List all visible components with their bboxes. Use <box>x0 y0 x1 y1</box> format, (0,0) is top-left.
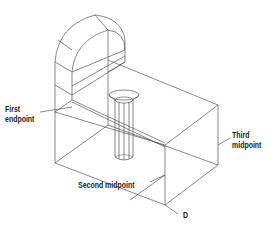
label-third-line2: midpoint <box>232 140 261 150</box>
wireframe-drawing <box>0 0 270 236</box>
label-d: D <box>183 210 188 220</box>
arch <box>55 15 125 112</box>
label-third-midpoint: Third midpoint <box>232 130 261 150</box>
label-first-endpoint: First endpoint <box>5 104 34 124</box>
label-third-line1: Third <box>232 130 261 140</box>
label-first-line2: endpoint <box>5 114 34 124</box>
label-second-midpoint: Second midpoint <box>78 180 135 190</box>
funnel <box>109 90 139 160</box>
label-first-line1: First <box>5 104 34 114</box>
